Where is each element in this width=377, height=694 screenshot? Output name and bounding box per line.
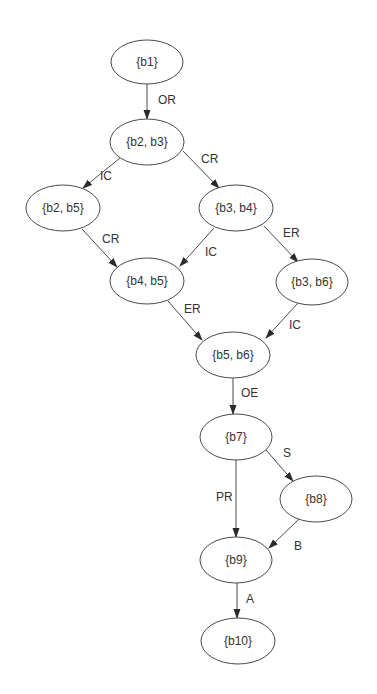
node-label: {b9} bbox=[225, 553, 246, 567]
edge-label: IC bbox=[205, 245, 217, 259]
node-label: {b8} bbox=[305, 492, 326, 506]
edge-n5-n7: ER bbox=[168, 301, 202, 340]
edge-label: ER bbox=[283, 226, 300, 240]
node-label: {b7} bbox=[225, 430, 246, 444]
node-b5-b6: {b5, b6} bbox=[196, 332, 270, 378]
edge-n6-n7: IC bbox=[266, 303, 301, 338]
node-label: {b1} bbox=[136, 55, 157, 69]
edge-n10-n11: A bbox=[237, 583, 254, 618]
node-b10: {b10} bbox=[201, 618, 275, 664]
edge-n4-n5: IC bbox=[180, 228, 217, 266]
edge-n1-n2: OR bbox=[147, 84, 176, 119]
node-b2-b3: {b2, b3} bbox=[110, 119, 184, 165]
edge-n2-n4: CR bbox=[183, 151, 219, 188]
edge-n8-n10: PR bbox=[216, 460, 236, 537]
edge-label: B bbox=[294, 539, 302, 553]
edge-n9-n10: B bbox=[269, 519, 302, 553]
node-b8: {b8} bbox=[280, 476, 352, 522]
node-label: {b3, b4} bbox=[215, 201, 256, 215]
edge-label: CR bbox=[201, 152, 219, 166]
node-b1: {b1} bbox=[111, 40, 183, 84]
node-b7: {b7} bbox=[200, 414, 272, 460]
edge-n2-n3: IC bbox=[83, 158, 120, 188]
node-b9: {b9} bbox=[200, 537, 272, 583]
state-graph-diagram: ORICCRCRICERERICOESPRBA {b1}{b2, b3}{b2,… bbox=[0, 0, 377, 694]
node-label: {b10} bbox=[224, 634, 252, 648]
edge-label: IC bbox=[100, 169, 112, 183]
node-b2-b5: {b2, b5} bbox=[26, 185, 100, 231]
edge-n3-n5: CR bbox=[82, 229, 120, 267]
node-label: {b3, b6} bbox=[291, 275, 332, 289]
node-label: {b5, b6} bbox=[212, 348, 253, 362]
edge-n7-n8: OE bbox=[233, 378, 258, 414]
edge-label: OE bbox=[241, 386, 258, 400]
node-label: {b4, b5} bbox=[126, 274, 167, 288]
edge-n8-n9: S bbox=[266, 446, 293, 481]
edge-label: IC bbox=[289, 318, 301, 332]
edge-label: CR bbox=[102, 232, 120, 246]
nodes-layer: {b1}{b2, b3}{b2, b5}{b3, b4}{b4, b5}{b3,… bbox=[26, 40, 352, 664]
edge-label: OR bbox=[158, 93, 176, 107]
node-label: {b2, b3} bbox=[126, 135, 167, 149]
edge-label: S bbox=[283, 446, 291, 460]
edge-label: A bbox=[246, 592, 254, 606]
node-label: {b2, b5} bbox=[42, 201, 83, 215]
node-b3-b4: {b3, b4} bbox=[199, 185, 273, 231]
node-b4-b5: {b4, b5} bbox=[110, 258, 184, 304]
edge-n4-n6: ER bbox=[264, 226, 300, 262]
edge-label: PR bbox=[216, 490, 233, 504]
node-b3-b6: {b3, b6} bbox=[276, 259, 348, 305]
edge-label: ER bbox=[184, 302, 201, 316]
